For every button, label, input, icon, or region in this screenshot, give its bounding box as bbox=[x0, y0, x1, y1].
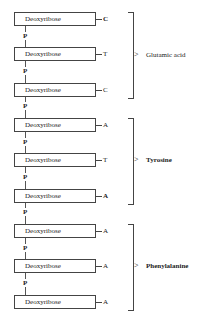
sugar-box: Deoxyribose bbox=[14, 153, 96, 167]
phosphate-label: P bbox=[23, 138, 27, 146]
sugar-box: Deoxyribose bbox=[14, 295, 96, 309]
phosphate-label: P bbox=[23, 208, 27, 216]
base-label: A bbox=[103, 262, 108, 270]
phosphate-label: P bbox=[23, 279, 27, 287]
base-bond bbox=[96, 54, 102, 55]
base-bond bbox=[96, 266, 102, 267]
base-bond bbox=[96, 90, 102, 91]
base-label: C bbox=[103, 15, 108, 23]
base-bond bbox=[96, 125, 102, 126]
base-label: T bbox=[103, 50, 107, 58]
phosphate-label: P bbox=[23, 102, 27, 110]
sugar-box: Deoxyribose bbox=[14, 118, 96, 132]
base-bond bbox=[96, 231, 102, 232]
sugar-box: Deoxyribose bbox=[14, 12, 96, 26]
phosphate-label: P bbox=[23, 67, 27, 75]
sugar-box: Deoxyribose bbox=[14, 47, 96, 61]
base-label: A bbox=[103, 192, 108, 200]
bracket-point-icon: > bbox=[134, 156, 139, 164]
amino-acid-label: Glutamic acid bbox=[146, 51, 185, 59]
sugar-box: Deoxyribose bbox=[14, 83, 96, 97]
sugar-box: Deoxyribose bbox=[14, 189, 96, 203]
phosphate-label: P bbox=[23, 173, 27, 181]
base-label: A bbox=[103, 227, 108, 235]
base-bond bbox=[96, 302, 102, 303]
amino-acid-label: Phenylalanine bbox=[146, 262, 188, 270]
phosphate-label: P bbox=[23, 244, 27, 252]
base-bond bbox=[96, 160, 102, 161]
base-bond bbox=[96, 19, 102, 20]
base-label: T bbox=[103, 156, 107, 164]
sugar-box: Deoxyribose bbox=[14, 259, 96, 273]
base-bond bbox=[96, 196, 102, 197]
base-label: A bbox=[103, 298, 108, 306]
phosphate-label: P bbox=[23, 32, 27, 40]
bracket-point-icon: > bbox=[134, 262, 139, 270]
base-label: A bbox=[103, 121, 108, 129]
bracket-point-icon: > bbox=[134, 51, 139, 59]
amino-acid-label: Tyrosine bbox=[146, 156, 172, 164]
sugar-box: Deoxyribose bbox=[14, 224, 96, 238]
base-label: C bbox=[103, 86, 108, 94]
